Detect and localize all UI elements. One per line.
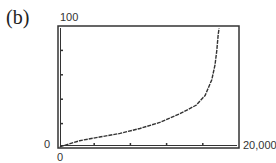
data-curve xyxy=(60,28,219,146)
axis-ticks xyxy=(60,50,203,146)
plot-frame xyxy=(58,26,239,148)
chart-plot xyxy=(0,0,276,163)
